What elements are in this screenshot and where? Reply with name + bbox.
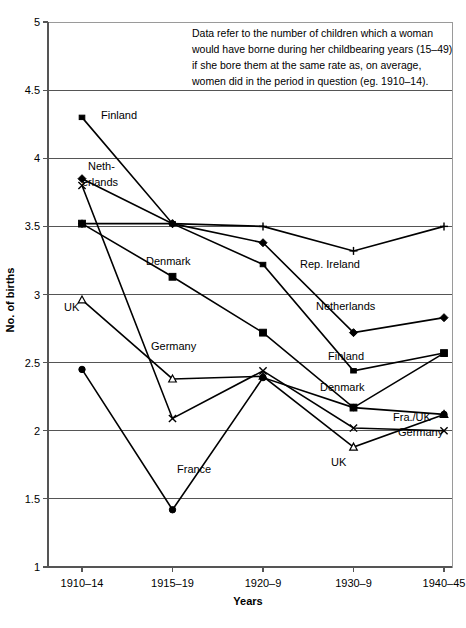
y-tick-label: 3.5 [25,220,40,232]
marker-square-small [351,369,357,373]
marker-square [79,220,86,227]
marker-square [169,273,176,280]
marker-square-small [260,262,266,266]
x-tick-label: 1915–19 [151,577,194,589]
label-uk-right: UK [331,456,347,468]
y-tick-label: 2 [34,425,40,437]
y-axis-title: No. of births [4,268,16,333]
y-axis-tick-labels: 11.522.533.544.55 [25,16,40,573]
label-denmark-right: Denmark [320,381,365,393]
marker-plus [259,222,267,230]
y-tick-label: 3 [34,289,40,301]
series-lines [82,117,444,509]
x-tick-label: 1920–9 [245,577,282,589]
marker-diamond [440,314,448,322]
label-france-left: France [177,463,211,475]
chart-figure: 11.522.533.544.55 1910–141915–191920–919… [0,0,466,628]
marker-circle [441,411,447,417]
annotation-line: would have borne during her childbearing… [191,43,452,55]
annotation-note: Data refer to the number of children whi… [191,27,452,87]
annotation-line: women did in the period in question (eg.… [191,75,428,87]
y-tick-label: 4 [34,152,40,164]
marker-circle [79,366,85,372]
y-axis-ticks [43,22,48,567]
fertility-line-chart: 11.522.533.544.55 1910–141915–191920–919… [0,0,466,628]
y-tick-label: 5 [34,16,40,28]
annotation-line: if she bore them at the same rate as, on… [192,59,421,71]
label-finland-left: Finland [101,109,137,121]
label-uk-left: UK [64,301,80,313]
label-netherlands-left-line1: Neth- [88,160,115,172]
marker-triangle [78,296,86,303]
x-tick-label: 1910–14 [61,577,104,589]
marker-square [260,329,267,336]
marker-circle [260,374,266,380]
series-line-france [82,369,444,509]
marker-plus [440,222,448,230]
label-netherlands-left-line2: erlands [82,176,119,188]
x-axis-title: Years [233,595,262,607]
marker-plus [350,247,358,255]
label-finland-right: Finland [328,350,364,362]
series-markers [78,115,448,513]
label-denmark-left: Denmark [146,255,191,267]
annotation-line: Data refer to the number of children whi… [192,27,433,39]
label-germany-right: Germany [398,426,444,438]
marker-square [441,350,448,357]
marker-circle [350,404,356,410]
y-tick-label: 4.5 [25,84,40,96]
x-axis-tick-labels: 1910–141915–191920–91930–91940–45 [61,577,466,589]
gridlines [48,22,452,567]
y-tick-label: 1 [34,561,40,573]
x-axis-ticks [82,567,444,572]
label-germany-left: Germany [151,340,197,352]
label-netherlands-right: Netherlands [316,300,376,312]
label-fra-uk-right: Fra./UK [393,411,432,423]
x-tick-label: 1940–45 [423,577,466,589]
marker-circle [169,507,175,513]
y-tick-label: 2.5 [25,357,40,369]
series-line-germany [82,186,444,431]
marker-x [169,415,176,422]
x-tick-label: 1930–9 [335,577,372,589]
marker-square-small [79,115,85,119]
y-tick-label: 1.5 [25,493,40,505]
label-rep-ireland: Rep. Ireland [300,258,360,270]
